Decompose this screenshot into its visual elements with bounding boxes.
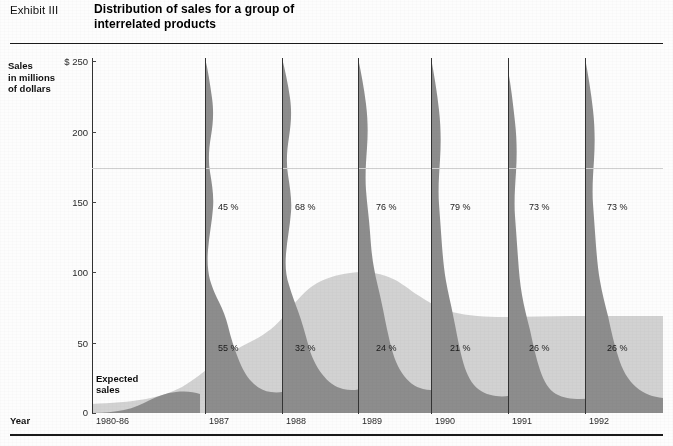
y-axis-title-line-3: of dollars <box>8 83 51 94</box>
year-divider-1991 <box>508 58 509 414</box>
y-axis-title-line-2: in millions <box>8 72 55 83</box>
x-tick-label-1992: 1992 <box>589 416 609 426</box>
figure-title: Distribution of sales for a group of int… <box>94 2 514 32</box>
y-tick-mark-250 <box>92 61 96 62</box>
figure-title-line-2: interrelated products <box>94 17 216 31</box>
density-curve-1990 <box>431 58 517 413</box>
header-divider-rule <box>10 43 663 44</box>
x-tick-label-1980-86: 1980-86 <box>96 416 129 426</box>
pct-lower-1991: 26 % <box>529 343 550 353</box>
density-curve-1991 <box>508 70 604 413</box>
expected-sales-annotation: Expected sales <box>96 373 138 395</box>
y-tick-mark-100 <box>92 272 96 273</box>
density-curve-1987 <box>205 58 289 413</box>
exhibit-label: Exhibit III <box>10 4 58 16</box>
y-tick-mark-200 <box>92 132 96 133</box>
footer-divider-rule <box>10 434 663 436</box>
y-tick-label-150: 150 <box>42 197 88 208</box>
y-tick-mark-0 <box>92 413 96 414</box>
pct-lower-1987: 55 % <box>218 343 239 353</box>
x-tick-label-1989: 1989 <box>362 416 382 426</box>
density-curve-1989 <box>358 58 441 413</box>
expected-sales-line-2: sales <box>96 384 120 395</box>
y-tick-label-50: 50 <box>42 338 88 349</box>
year-divider-1989 <box>358 58 359 414</box>
x-tick-label-1987: 1987 <box>209 416 229 426</box>
figure-header: Exhibit III Distribution of sales for a … <box>0 0 673 40</box>
x-axis-title: Year <box>10 415 30 426</box>
exhibit-figure: Exhibit III Distribution of sales for a … <box>0 0 673 446</box>
density-curve-1988 <box>282 58 364 413</box>
pct-upper-1990: 79 % <box>450 202 471 212</box>
pct-upper-1987: 45 % <box>218 202 239 212</box>
pct-upper-1988: 68 % <box>295 202 316 212</box>
y-tick-mark-50 <box>92 343 96 344</box>
year-divider-1988 <box>282 58 283 414</box>
year-divider-1987 <box>205 58 206 414</box>
y-tick-label-100: 100 <box>42 267 88 278</box>
year-divider-1992 <box>585 58 586 414</box>
reference-gridline <box>92 168 663 169</box>
pct-upper-1989: 76 % <box>376 202 397 212</box>
y-axis-line <box>92 58 93 414</box>
x-tick-label-1990: 1990 <box>435 416 455 426</box>
year-divider-1990 <box>431 58 432 414</box>
y-tick-label-200: 200 <box>42 127 88 138</box>
y-tick-label-250: $ 250 <box>42 56 88 67</box>
pct-lower-1989: 24 % <box>376 343 397 353</box>
expected-sales-line-1: Expected <box>96 373 138 384</box>
y-tick-label-0: 0 <box>42 407 88 418</box>
pct-lower-1992: 26 % <box>607 343 628 353</box>
pct-upper-1991: 73 % <box>529 202 550 212</box>
pct-lower-1990: 21 % <box>450 343 471 353</box>
figure-title-line-1: Distribution of sales for a group of <box>94 2 294 16</box>
x-tick-label-1988: 1988 <box>286 416 306 426</box>
pct-lower-1988: 32 % <box>295 343 316 353</box>
density-curve-1992 <box>585 58 663 413</box>
y-tick-mark-150 <box>92 202 96 203</box>
x-tick-label-1991: 1991 <box>512 416 532 426</box>
pct-upper-1992: 73 % <box>607 202 628 212</box>
y-axis-title-line-1: Sales <box>8 60 33 71</box>
